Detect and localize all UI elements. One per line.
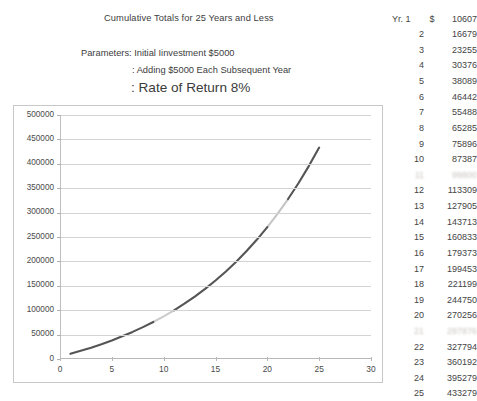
x-tick-mark: [267, 357, 268, 361]
series-path: [174, 227, 267, 310]
y-axis-tick-label: 100000: [27, 305, 54, 314]
table-cell-year: 25: [400, 388, 424, 398]
table-year-header: Yr. 1: [392, 14, 414, 24]
table-cell-value: 297876: [436, 326, 477, 336]
y-axis-tick-label: 0: [49, 354, 54, 363]
x-axis-tick-label: 30: [357, 364, 385, 374]
x-axis-tick-label: 0: [46, 364, 74, 374]
table-row: 13127905: [392, 201, 477, 217]
y-gridline: [60, 213, 371, 214]
table-row: 1087387: [392, 154, 477, 170]
table-cell-value: 270256: [436, 310, 477, 320]
table-cell-year: 9: [400, 139, 424, 149]
table-cell-value: 221199: [436, 279, 477, 289]
table-cell-value: 143713: [436, 217, 477, 227]
table-row: 865285: [392, 123, 477, 139]
y-gridline: [60, 237, 371, 238]
table-cell-year: 22: [400, 342, 424, 352]
table-cell-year: 19: [400, 295, 424, 305]
x-axis-tick-label: 25: [305, 364, 333, 374]
table-cell-year: 8: [400, 123, 424, 133]
table-row: 20270256: [392, 310, 477, 326]
y-tick-mark: [57, 335, 61, 336]
table-cell-value: 10607: [436, 14, 477, 24]
x-tick-mark: [216, 357, 217, 361]
table-cell-year: 23: [400, 357, 424, 367]
y-axis-tick-label: 400000: [27, 158, 54, 167]
table-row: 430376: [392, 60, 477, 76]
table-cell-year: 12: [400, 185, 424, 195]
table-cell-year: 18: [400, 279, 424, 289]
y-axis-tick-label: 300000: [27, 207, 54, 216]
table-cell-year: 17: [400, 264, 424, 274]
y-tick-mark: [57, 139, 61, 140]
x-tick-mark: [319, 357, 320, 361]
table-row: 24395279: [392, 373, 477, 389]
y-tick-mark: [57, 310, 61, 311]
y-axis-tick-label: 150000: [27, 280, 54, 289]
y-tick-mark: [57, 164, 61, 165]
series-path: [70, 322, 153, 354]
table-cell-year: 6: [400, 92, 424, 102]
table-cell-value: 395279: [436, 373, 477, 383]
table-cell-value: 30376: [436, 60, 477, 70]
chart-frame: 0500001000001500002000002500003000003500…: [13, 105, 383, 383]
table-cell-value: 433279: [436, 388, 477, 398]
parameter-line-rate-of-return: : Rate of Return 8%: [131, 80, 250, 95]
table-cell-year: 7: [400, 107, 424, 117]
y-tick-mark: [57, 261, 61, 262]
table-cell-value: 65285: [436, 123, 477, 133]
table-cell-value: 179373: [436, 248, 477, 258]
y-gridline: [60, 164, 371, 165]
page-title: Cumulative Totals for 25 Years and Less: [104, 13, 274, 23]
y-gridline: [60, 115, 371, 116]
x-axis-tick-label: 5: [98, 364, 126, 374]
parameter-line-annual-addition: : Adding $5000 Each Subsequent Year: [132, 65, 291, 75]
y-gridline: [60, 261, 371, 262]
y-axis-tick-label: 50000: [31, 329, 54, 338]
table-cell-year: 5: [400, 76, 424, 86]
table-cell-value: 23255: [436, 45, 477, 55]
y-tick-mark: [57, 286, 61, 287]
table-cell-value: 327794: [436, 342, 477, 352]
table-cell-value: 360192: [436, 357, 477, 367]
y-gridline: [60, 286, 371, 287]
series-path: [288, 148, 319, 199]
y-gridline: [60, 188, 371, 189]
parameter-line-initial-investment: Parameters: Initial Iinvestment $5000: [81, 48, 234, 58]
table-cell-value: 16679: [436, 29, 477, 39]
table-row: 538089: [392, 76, 477, 92]
table-cell-year: 20: [400, 310, 424, 320]
table-row: 646442: [392, 92, 477, 108]
table-cell-year: 21: [400, 326, 424, 336]
y-axis-tick-label: 450000: [27, 134, 54, 143]
table-row: 25433279: [392, 388, 477, 401]
y-tick-mark: [57, 237, 61, 238]
x-tick-mark: [164, 357, 165, 361]
y-axis-tick-label: 500000: [27, 110, 54, 119]
y-axis-tick-label: 250000: [27, 232, 54, 241]
table-cell-year: 2: [400, 29, 424, 39]
table-row: 19244750: [392, 295, 477, 311]
table-cell-year: 16: [400, 248, 424, 258]
table-cell-value: 160833: [436, 232, 477, 242]
table-row: 21297876: [392, 326, 477, 342]
y-gridline: [60, 335, 371, 336]
y-tick-mark: [57, 213, 61, 214]
table-cell-value: 99800: [436, 170, 477, 180]
x-axis-tick-label: 15: [202, 364, 230, 374]
screenshot-root: Cumulative Totals for 25 Years and Less …: [0, 0, 477, 401]
table-cell-value: 87387: [436, 154, 477, 164]
table-row: 323255: [392, 45, 477, 61]
table-cell-year: 11: [400, 170, 424, 180]
table-cell-value: 38089: [436, 76, 477, 86]
chart-plot-area: 0500001000001500002000002500003000003500…: [60, 115, 371, 359]
y-tick-mark: [57, 115, 61, 116]
x-tick-mark: [60, 357, 61, 361]
series-path: [153, 310, 174, 322]
table-row: 755488: [392, 107, 477, 123]
table-row: 15160833: [392, 232, 477, 248]
y-axis-tick-label: 350000: [27, 183, 54, 192]
table-cell-year: 13: [400, 201, 424, 211]
table-cell-value: 199453: [436, 264, 477, 274]
